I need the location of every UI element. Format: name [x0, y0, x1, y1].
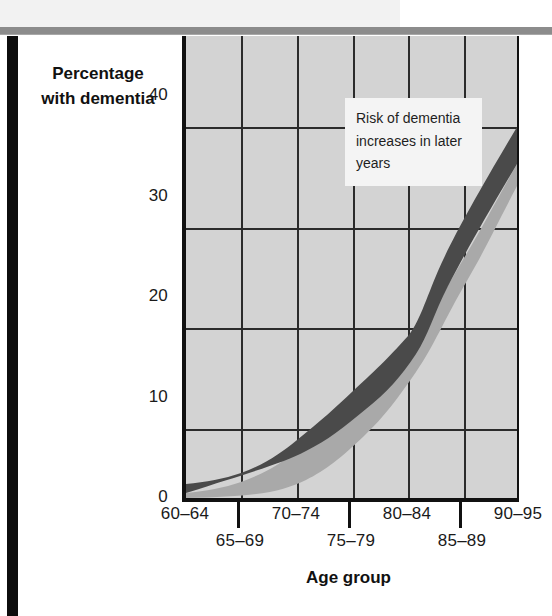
x-tick-label-75-79: 75–79: [314, 531, 388, 551]
x-axis-title: Age group: [182, 568, 515, 588]
y-axis-title-line1: Percentage: [52, 64, 144, 83]
x-tick-label-85-89: 85–89: [425, 531, 499, 551]
annotation-callout: Risk of dementia increases in later year…: [345, 98, 482, 186]
x-tick-mark-3: [459, 502, 462, 528]
figure-page: Percentage with dementia 40 30 20 10 0: [0, 0, 552, 616]
x-tick-label-60-64: 60–64: [148, 504, 222, 524]
dementia-prevalence-chart: Percentage with dementia 40 30 20 10 0: [0, 0, 552, 616]
x-tick-label-65-69: 65–69: [203, 531, 277, 551]
y-tick-label-20: 20: [122, 286, 168, 306]
y-tick-label-10: 10: [122, 387, 168, 407]
x-tick-label-80-84: 80–84: [370, 504, 444, 524]
x-tick-mark-2: [348, 502, 351, 528]
x-tick-mark-1: [237, 502, 240, 528]
x-tick-label-70-74: 70–74: [259, 504, 333, 524]
y-tick-label-30: 30: [122, 186, 168, 206]
y-tick-label-40: 40: [122, 85, 168, 105]
x-tick-label-90-95: 90–95: [481, 504, 552, 524]
